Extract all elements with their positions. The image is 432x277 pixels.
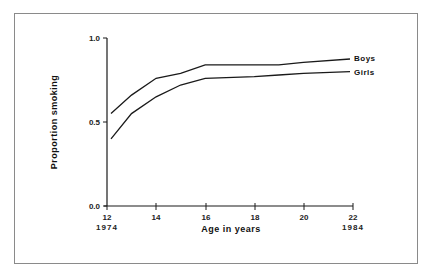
- y-tick-label: 0.0: [89, 202, 101, 211]
- x-tick-label: 22: [349, 213, 358, 222]
- year-end-label: 1984: [342, 223, 364, 232]
- y-tick-label: 0.5: [89, 118, 101, 127]
- line-chart: 1.0 0.5 0.0 12 14 16 18 20 22 1974 1984 …: [0, 0, 432, 277]
- x-tick-label: 12: [103, 213, 112, 222]
- y-axis-title: Proportion smoking: [49, 75, 59, 170]
- year-start-label: 1974: [96, 223, 118, 232]
- y-tick-label: 1.0: [89, 34, 101, 43]
- x-tick-label: 16: [202, 213, 211, 222]
- x-tick-label: 14: [152, 213, 161, 222]
- legend-girls: Girls: [354, 68, 375, 77]
- series-boys-line: [111, 59, 350, 114]
- x-axis-title: Age in years: [201, 224, 261, 234]
- x-tick-label: 20: [300, 213, 309, 222]
- x-tick-label: 18: [251, 213, 260, 222]
- series-girls-line: [111, 72, 350, 139]
- legend-boys: Boys: [354, 54, 376, 63]
